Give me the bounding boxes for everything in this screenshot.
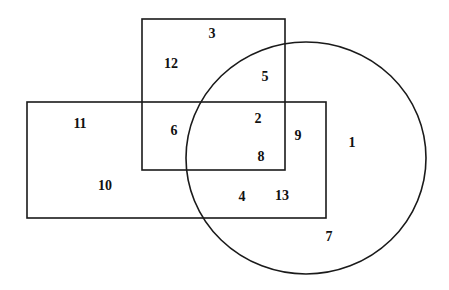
region-labels: 3 12 5 11 6 2 9 1 8 10 4 13 7: [73, 26, 355, 244]
region-label-3: 3: [209, 26, 216, 41]
region-label-4: 4: [239, 189, 246, 204]
region-label-9: 9: [295, 128, 302, 143]
region-label-2: 2: [255, 111, 262, 126]
circle: [186, 42, 426, 274]
region-label-5: 5: [262, 69, 269, 84]
region-label-11: 11: [73, 116, 86, 131]
region-label-13: 13: [275, 188, 289, 203]
region-label-7: 7: [326, 229, 333, 244]
region-label-12: 12: [164, 56, 178, 71]
region-label-10: 10: [98, 178, 112, 193]
top-rectangle: [142, 19, 285, 170]
venn-diagram: 3 12 5 11 6 2 9 1 8 10 4 13 7: [0, 0, 449, 290]
region-label-1: 1: [349, 135, 356, 150]
region-label-6: 6: [171, 123, 178, 138]
region-label-8: 8: [258, 149, 265, 164]
